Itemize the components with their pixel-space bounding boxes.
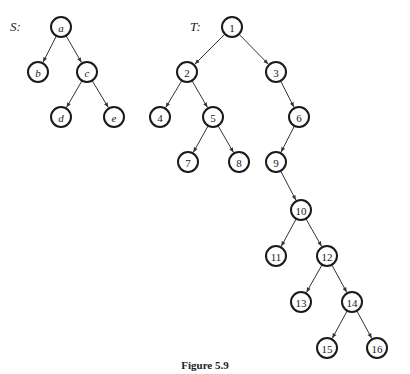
node-label: 2 [184, 67, 190, 79]
node-t-13: 13 [291, 292, 311, 312]
node-label: 13 [296, 297, 308, 309]
node-label: d [58, 112, 64, 124]
node-label: c [85, 67, 90, 79]
tree-t-label: T: [190, 19, 201, 34]
edge-t-6-9 [281, 126, 294, 152]
node-label: 1 [229, 22, 235, 34]
edge-s-a-b [43, 36, 56, 62]
figure-caption: Figure 5.9 [181, 359, 229, 371]
node-t-14: 14 [342, 292, 362, 312]
edge-s-a-c [66, 36, 81, 63]
edge-t-12-14 [332, 265, 347, 293]
node-label: 7 [185, 157, 191, 169]
node-t-15: 15 [317, 338, 337, 358]
node-label: b [35, 67, 41, 79]
node-t-11: 11 [266, 246, 286, 266]
node-label: 4 [157, 112, 163, 124]
node-t-7: 7 [178, 152, 198, 172]
node-label: 6 [296, 112, 302, 124]
node-t-6: 6 [289, 107, 309, 127]
node-t-12: 12 [317, 246, 337, 266]
edge-t-5-8 [218, 126, 233, 153]
edge-t-1-3 [239, 34, 268, 64]
node-label: 14 [347, 297, 359, 309]
node-label: 10 [296, 205, 308, 217]
nodes-layer: abcde12345678910111213141516 [28, 17, 387, 358]
node-t-3: 3 [266, 62, 286, 82]
node-t-2: 2 [177, 62, 197, 82]
tree-s-label: S: [10, 19, 21, 34]
edge-t-12-13 [306, 265, 322, 293]
edge-t-14-15 [332, 311, 347, 339]
node-label: 12 [322, 251, 333, 263]
edge-s-c-d [67, 81, 82, 108]
node-s-c: c [77, 62, 97, 82]
node-t-10: 10 [291, 200, 311, 220]
node-t-8: 8 [229, 152, 249, 172]
figure-canvas: abcde12345678910111213141516 S: T: Figur… [0, 0, 410, 374]
edge-t-3-6 [281, 81, 294, 107]
node-s-b: b [28, 62, 48, 82]
node-s-a: a [51, 17, 71, 37]
node-t-9: 9 [266, 152, 286, 172]
edge-t-9-10 [281, 171, 296, 200]
node-label: 3 [273, 67, 279, 79]
node-t-1: 1 [222, 17, 242, 37]
node-s-d: d [51, 107, 71, 127]
node-label: 8 [236, 157, 242, 169]
node-t-4: 4 [150, 107, 170, 127]
edge-s-c-e [92, 81, 108, 108]
edge-t-2-5 [192, 81, 207, 108]
edge-t-10-12 [306, 219, 322, 247]
node-t-5: 5 [203, 107, 223, 127]
edge-t-14-16 [357, 311, 372, 339]
node-label: 15 [322, 343, 334, 355]
edge-t-1-2 [195, 34, 225, 64]
edge-t-2-4 [166, 81, 182, 108]
edge-t-10-11 [281, 219, 296, 247]
edge-t-5-7 [193, 126, 208, 153]
node-label: e [112, 112, 117, 124]
node-s-e: e [104, 107, 124, 127]
node-label: 5 [210, 112, 216, 124]
node-label: 9 [273, 157, 279, 169]
node-label: 16 [372, 343, 384, 355]
node-t-16: 16 [367, 338, 387, 358]
node-label: 11 [271, 251, 282, 263]
node-label: a [58, 22, 64, 34]
